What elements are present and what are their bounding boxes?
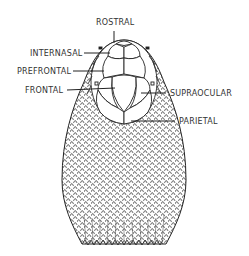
label-rostral: ROSTRAL	[96, 18, 134, 28]
label-parietal: PARIETAL	[179, 117, 218, 127]
snake-head-diagram: ROSTRAL INTERNASAL PREFRONTAL FRONTAL SU…	[0, 0, 249, 256]
label-frontal: FRONTAL	[25, 86, 63, 96]
snake-head-illustration	[0, 0, 249, 256]
label-internasal: INTERNASAL	[30, 49, 82, 59]
label-supraocular: SUPRAOCULAR	[170, 89, 232, 99]
label-prefrontal: PREFRONTAL	[17, 67, 71, 77]
